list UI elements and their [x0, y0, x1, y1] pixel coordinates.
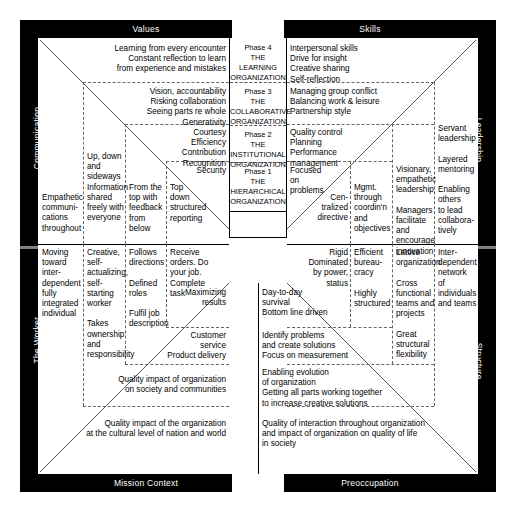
diagram-root: Values Skills Mission Context Preoccupat… — [0, 0, 516, 508]
skills-sep-3-2 — [287, 124, 434, 125]
values-phase1: Security — [60, 166, 226, 176]
lower-center-line — [258, 283, 259, 474]
skills-phase3: Managing group conflict Balancing work &… — [290, 87, 440, 118]
values-phase3: Vision, accountability Risking collabora… — [60, 87, 226, 128]
band-divider-bottom — [232, 474, 284, 492]
band-label-values: Values — [60, 24, 232, 34]
values-phase2: Courtesy Efficiency Contribution Recogni… — [60, 128, 226, 169]
phase-2-the: THE — [230, 140, 286, 150]
communication-col3: From the top with feedback from below — [129, 183, 169, 234]
band-divider-left — [20, 246, 38, 249]
band-divider-top — [232, 20, 284, 38]
mission-sep-3-4 — [83, 406, 229, 407]
mission-phase3: Quality impact of organization on societ… — [60, 375, 226, 395]
preoccupation-phase4: Quality of interaction throughout organi… — [262, 419, 462, 450]
mission-phase4: Quality impact of the organization at th… — [40, 419, 226, 439]
preocc-sep-2-3 — [287, 364, 434, 365]
phase-1-the: THE — [230, 177, 286, 187]
mission-phase1: Maximizing results — [150, 288, 226, 308]
worker-col1: Moving toward inter- dependent fully int… — [42, 248, 88, 319]
phase-sep-4-3 — [230, 82, 286, 83]
preoccupation-phase3: Enabling evolution of organization Getti… — [262, 368, 440, 409]
phase-2-number: Phase 2 — [230, 130, 286, 140]
mission-sep-1-2 — [166, 327, 229, 328]
band-label-communication: Communication — [32, 68, 42, 208]
mid-line-right — [287, 244, 478, 245]
phase-sep-3-2 — [230, 125, 286, 126]
lead-col-sep-1 — [350, 161, 351, 244]
band-label-the-worker: The Worker — [32, 264, 42, 416]
band-label-structure: Structure — [474, 286, 484, 436]
structure-col1: Rigid Dominated by power, status — [292, 248, 348, 289]
structure-col3: Lattice organization Cross functional te… — [396, 248, 440, 360]
communication-col2: Up, down and sideways Information shared… — [87, 152, 129, 223]
phase-3-number: Phase 3 — [230, 87, 286, 97]
band-divider-right — [478, 246, 496, 249]
phase-sep-2-1 — [230, 162, 286, 163]
leadership-col1: Cen- tralized directive — [300, 193, 348, 224]
values-phase4: Learning from every encounter Constant r… — [60, 44, 226, 75]
band-label-skills: Skills — [284, 24, 456, 34]
preocc-sep-1-2 — [287, 327, 392, 328]
mission-sep-2-3 — [125, 364, 229, 365]
phase-3-name: COLLABORATIVE ORGANIZATION — [230, 107, 286, 127]
mission-phase2: Customer service Product delivery — [110, 331, 226, 362]
phase-1-name: HIERARCHICAL ORGANIZATION — [230, 187, 286, 207]
phase-box-3[interactable]: Phase 3 THE COLLABORATIVE ORGANIZATION — [230, 84, 286, 127]
leadership-col2: Mgmt. through coordin'n and objectives — [354, 183, 394, 234]
phase-column: Phase 4 THE LEARNING ORGANIZATION Phase … — [229, 38, 287, 212]
phase-3-the: THE — [230, 97, 286, 107]
values-sep-4-3 — [83, 82, 229, 83]
communication-col1: Empathetic communi- cations throughout — [42, 193, 86, 234]
phase-4-name: LEARNING ORGANIZATION — [230, 63, 286, 83]
preoccupation-phase2: Identify problems and create solutions F… — [262, 331, 392, 362]
band-label-mission-context: Mission Context — [60, 478, 232, 488]
band-label-preoccupation: Preoccupation — [284, 478, 456, 488]
structure-col2: Efficient bureau- cracy Highly structure… — [354, 248, 396, 309]
phase-4-the: THE — [230, 53, 286, 63]
mid-line-left — [38, 244, 229, 245]
preoccupation-phase1: Day-to-day survival Bottom line driven — [262, 288, 352, 319]
phase-box-1[interactable]: Phase 1 THE HIERARCHICAL ORGANIZATION — [230, 164, 286, 207]
band-label-leadership: Leadership — [474, 70, 484, 210]
phase-4-number: Phase 4 — [230, 43, 286, 53]
skills-phase4: Interpersonal skills Drive for insight C… — [290, 44, 440, 85]
phase-1-number: Phase 1 — [230, 167, 286, 177]
phase-box-4[interactable]: Phase 4 THE LEARNING ORGANIZATION — [230, 40, 286, 83]
leadership-col3: Visionary, empathetic leadership Manager… — [396, 165, 438, 257]
communication-col4: Top down structured reporting — [170, 183, 228, 224]
skills-phase2: Quality control Planning Performance man… — [290, 128, 390, 169]
